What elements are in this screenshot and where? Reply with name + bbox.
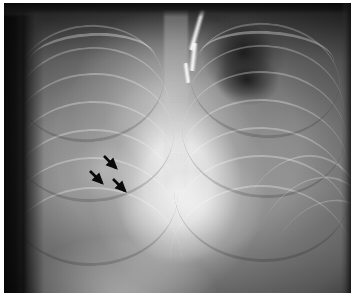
radiograph-figure <box>0 0 353 300</box>
radiograph-plate <box>4 3 351 293</box>
page-margin-top <box>0 0 353 3</box>
film-edge-right <box>341 3 351 293</box>
film-edge-top <box>4 3 351 17</box>
page-margin-left <box>0 0 4 300</box>
page-margin-bottom <box>0 293 353 300</box>
film-edge-left-soft <box>22 3 44 293</box>
rib-cage <box>4 3 351 293</box>
